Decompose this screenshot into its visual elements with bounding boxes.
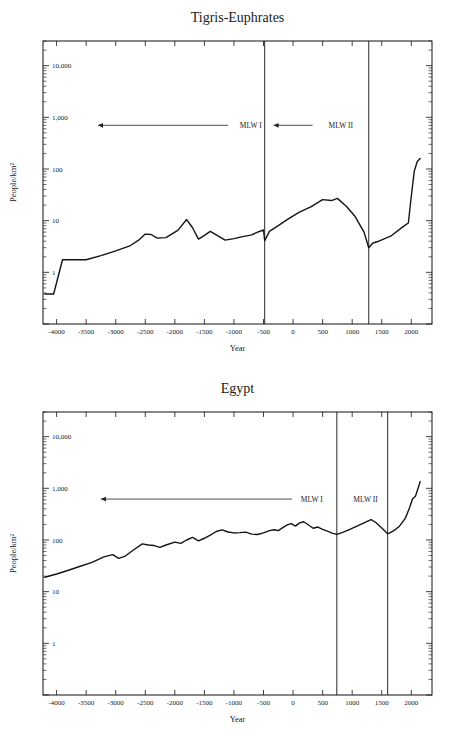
x-tick-label: -4000 xyxy=(48,699,65,707)
x-tick-label: 1500 xyxy=(375,328,390,336)
y-tick-label: 10 xyxy=(52,217,60,225)
y-tick-label: 1 xyxy=(52,269,56,277)
x-axis-title: Year xyxy=(230,343,246,353)
y-axis-title: People/km² xyxy=(8,163,18,202)
x-tick-label: -2000 xyxy=(167,328,184,336)
y-tick-label: 1,000 xyxy=(52,114,68,122)
mlw-label-2: MLW II xyxy=(353,495,378,504)
plot-frame xyxy=(43,412,432,695)
tigris-euphrates-plot: Tigris-Euphrates1101001,00010,000People/… xyxy=(0,0,451,371)
y-tick-label: 10,000 xyxy=(52,433,72,441)
chart-title: Tigris-Euphrates xyxy=(191,10,285,25)
x-tick-label: -3500 xyxy=(78,699,95,707)
y-tick-label: 1 xyxy=(52,640,56,648)
x-tick-label: 0 xyxy=(291,699,295,707)
x-tick-label: -3000 xyxy=(108,699,125,707)
x-tick-label: -4000 xyxy=(48,328,65,336)
x-tick-label: -1500 xyxy=(196,699,213,707)
plot-frame xyxy=(43,41,432,324)
x-tick-label: -2000 xyxy=(167,699,184,707)
x-tick-label: -2500 xyxy=(137,699,154,707)
y-axis-title: People/km² xyxy=(8,534,18,573)
y-tick-label: 10 xyxy=(52,588,60,596)
egypt-plot: Egypt1101001,00010,000People/km²-4000-35… xyxy=(0,371,451,742)
x-tick-label: 2000 xyxy=(404,699,419,707)
chart-tigris-euphrates: Tigris-Euphrates1101001,00010,000People/… xyxy=(0,0,451,371)
x-tick-label: 1000 xyxy=(345,699,360,707)
x-tick-label: 1000 xyxy=(345,328,360,336)
x-tick-label: -1000 xyxy=(226,699,243,707)
x-tick-label: -1500 xyxy=(196,328,213,336)
x-tick-label: -3000 xyxy=(108,328,125,336)
x-tick-label: 1500 xyxy=(375,699,390,707)
x-tick-label: 500 xyxy=(317,699,328,707)
mlw-arrow-head xyxy=(98,123,103,128)
x-tick-label: -500 xyxy=(257,699,270,707)
mlw-arrow-head xyxy=(101,497,106,502)
x-axis-title: Year xyxy=(230,714,246,724)
chart-title: Egypt xyxy=(221,381,255,396)
x-tick-label: 0 xyxy=(291,328,295,336)
x-tick-label: -3500 xyxy=(78,328,95,336)
x-tick-label: 500 xyxy=(317,328,328,336)
y-tick-label: 1,000 xyxy=(52,485,68,493)
y-tick-label: 100 xyxy=(52,537,63,545)
mlw-label-1: MLW I xyxy=(240,121,263,130)
y-tick-label: 100 xyxy=(52,166,63,174)
x-tick-label: -1000 xyxy=(226,328,243,336)
y-tick-label: 10,000 xyxy=(52,62,72,70)
x-tick-label: -2500 xyxy=(137,328,154,336)
x-tick-label: -500 xyxy=(257,328,270,336)
data-line-1 xyxy=(45,158,420,294)
mlw-arrow-head xyxy=(274,123,279,128)
mlw-label-1: MLW I xyxy=(301,495,324,504)
mlw-label-2: MLW II xyxy=(329,121,354,130)
x-tick-label: 2000 xyxy=(404,328,419,336)
chart-egypt: Egypt1101001,00010,000People/km²-4000-35… xyxy=(0,371,451,742)
